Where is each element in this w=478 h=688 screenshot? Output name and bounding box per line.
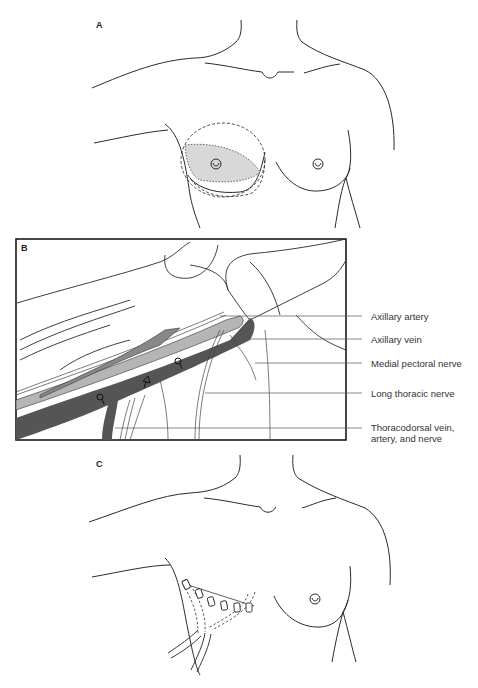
- panel-c-illustration: [0, 0, 478, 688]
